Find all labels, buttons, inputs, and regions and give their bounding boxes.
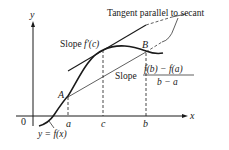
secant-slope-label: Slope f(b) − f(a) b − a	[115, 64, 194, 87]
mean-value-theorem-diagram: y x 0 y = f(x) A B a c b Tangent paralle…	[0, 0, 229, 150]
curve-label: y = f(x)	[37, 129, 67, 140]
secant-slope-denominator: b − a	[157, 77, 178, 87]
y-axis-label: y	[29, 9, 35, 20]
curve-label-leader	[49, 121, 54, 128]
tick-label-b: b	[143, 118, 148, 129]
x-axis-arrow-icon	[182, 114, 188, 118]
point-b-label: B	[142, 39, 148, 50]
tangent-slope-expr: f′(c)	[84, 39, 99, 50]
tick-label-a: a	[66, 118, 71, 129]
tangent-slope-prefix: Slope	[60, 39, 84, 49]
vertical-guides	[68, 50, 146, 116]
secant-extension	[146, 42, 162, 52]
secant-slope-numerator: f(b) − f(a)	[144, 64, 183, 75]
tangent-extension	[146, 17, 172, 25]
callout-leaders	[162, 14, 186, 42]
point-a-label: A	[57, 89, 65, 100]
tick-label-c: c	[101, 118, 106, 129]
function-curve	[39, 46, 163, 126]
x-axis-label: x	[189, 110, 195, 121]
secant-slope-prefix: Slope	[115, 71, 137, 81]
origin-label: 0	[21, 116, 26, 127]
tangent-slope-label: Slope f′(c)	[60, 39, 99, 50]
tangent-callout-label: Tangent parallel to secant	[107, 8, 205, 18]
y-axis	[31, 21, 35, 126]
y-axis-arrow-icon	[31, 21, 35, 27]
